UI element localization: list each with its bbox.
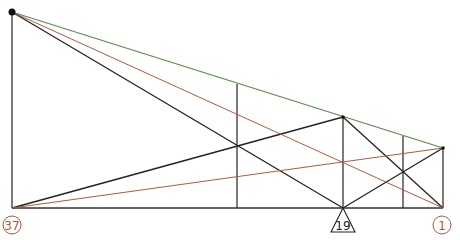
- right-top-node: [441, 146, 445, 150]
- red-line-top-left-to-bottom-right: [12, 12, 443, 208]
- green-top-chord-line: [12, 12, 443, 148]
- support-label: 19: [335, 219, 350, 233]
- bottom-left-to-mid-top-diagonal: [12, 117, 343, 208]
- mid-top-node: [341, 115, 345, 119]
- top-left-to-support-diagonal: [12, 12, 343, 208]
- top-left-node: [9, 9, 16, 16]
- left-label: 37: [4, 219, 19, 233]
- red-line-bottom-left-to-right-top: [12, 148, 443, 208]
- mid-top-to-bottom-right-diagonal: [343, 117, 443, 208]
- support-to-right-top-diagonal: [343, 148, 443, 208]
- truss-diagram: 37 19 1: [0, 0, 460, 240]
- right-label: 1: [438, 219, 446, 233]
